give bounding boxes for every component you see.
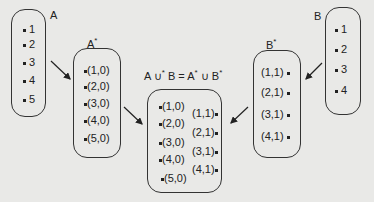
set-b-star-item: (4,1) — [261, 130, 290, 142]
union-left-item: (5,0) — [161, 172, 187, 184]
set-a-item: 4 — [23, 74, 35, 86]
set-a-label: A — [50, 9, 57, 21]
set-a-star-item: (4,0) — [84, 114, 110, 126]
set-b-item: 1 — [335, 23, 347, 35]
set-b-star-label: B* — [266, 37, 276, 51]
set-b-star-item: (2,1) — [261, 86, 290, 98]
set-b-item: 3 — [335, 63, 347, 75]
union-right-item: (3,1) — [192, 145, 218, 157]
set-a-item: 1 — [23, 23, 35, 35]
union-left-item: (1,0) — [159, 100, 185, 112]
set-b-star-item: (1,1) — [261, 66, 290, 78]
set-a-item: 5 — [23, 93, 35, 105]
union-left-item: (4,0) — [159, 153, 185, 165]
set-a-item: 3 — [23, 56, 35, 68]
union-right-item: (2,1) — [192, 126, 218, 138]
set-a-star-item: (3,0) — [84, 97, 110, 109]
set-a-star-item: (1,0) — [84, 64, 110, 76]
union-left-item: (2,0) — [159, 117, 185, 129]
union-label: A ∪* B = A* ∪ B* — [144, 68, 222, 83]
union-right-item: (4,1) — [192, 163, 218, 175]
set-a-star-item: (5,0) — [84, 132, 110, 144]
set-b-item: 2 — [335, 43, 347, 55]
set-a-star-item: (2,0) — [84, 80, 110, 92]
union-left-item: (3,0) — [159, 136, 185, 148]
set-b-item: 4 — [335, 84, 347, 96]
set-b-star-item: (3,1) — [261, 108, 290, 120]
set-b-label: B — [314, 10, 321, 22]
union-right-item: (1,1) — [192, 107, 218, 119]
set-a-item: 2 — [23, 38, 35, 50]
